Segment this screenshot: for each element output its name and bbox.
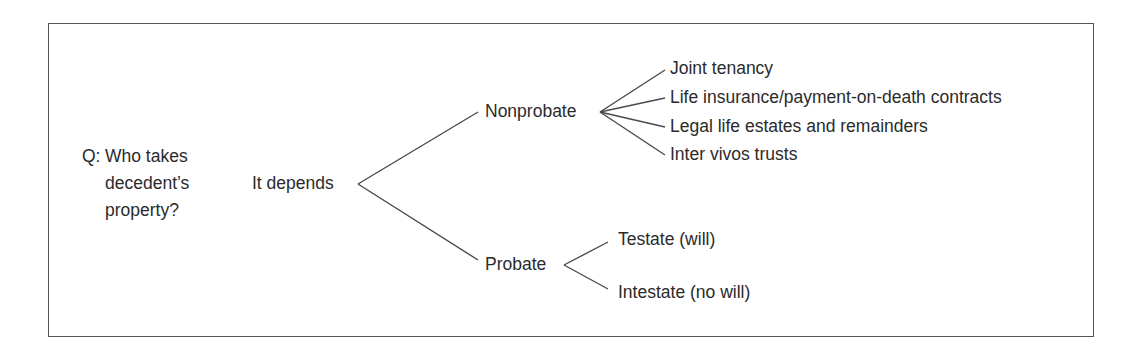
question-text: Who takes decedent’s property?: [105, 143, 189, 224]
leaf-node: Intestate (no will): [618, 279, 750, 306]
branch-node-nonprobate: Nonprobate: [485, 98, 576, 125]
question-line: decedent’s: [105, 170, 189, 197]
root-node: It depends: [252, 170, 334, 197]
question-line: property?: [105, 197, 189, 224]
connector-probate-0: [564, 242, 608, 265]
connector-nonprobate-3: [600, 112, 665, 155]
leaf-node: Joint tenancy: [670, 55, 773, 82]
question-prefix: Q:: [82, 143, 100, 170]
leaf-node: Testate (will): [618, 226, 715, 253]
branch-node-probate: Probate: [485, 251, 546, 278]
connector-probate-1: [564, 265, 608, 289]
leaf-node: Life insurance/payment-on-death contract…: [670, 84, 1002, 111]
leaf-node: Inter vivos trusts: [670, 141, 797, 168]
connector-root-nonprobate: [358, 112, 478, 184]
connector-root-probate: [358, 184, 478, 260]
leaf-node: Legal life estates and remainders: [670, 113, 928, 140]
connector-nonprobate-2: [600, 112, 665, 127]
question-line: Who takes: [105, 143, 189, 170]
